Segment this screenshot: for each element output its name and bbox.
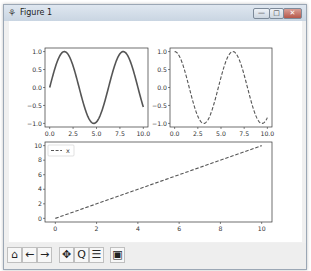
configure-subplots-button[interactable]: ☰ [89,247,104,263]
home-button[interactable]: ⌂ [7,247,22,263]
subplot-2: 0.02.55.07.510.0−1.0−0.50.00.51.0 [152,48,274,137]
x-tick-label: 2 [95,225,99,232]
y-tick-label: 0 [38,215,42,222]
y-tick-label: −1.0 [152,120,167,127]
x-tick-label: 4 [136,225,140,232]
x-tick-label: 10.0 [136,130,150,137]
x-tick-label: 5.0 [92,130,102,137]
window-title: Figure 1 [20,7,52,19]
y-tick-label: 0.0 [157,84,167,91]
x-tick-label: 0 [53,225,57,232]
save-button[interactable]: ▣ [110,247,125,263]
subplot-3: 02468100246810x [34,142,272,232]
x-tick-label: 8 [218,225,222,232]
maximize-button[interactable]: □ [269,8,284,19]
close-button[interactable]: ✕ [283,8,302,19]
x-tick-label: 10 [258,225,266,232]
x-tick-label: 7.5 [115,130,125,137]
x-tick-label: 2.5 [68,130,78,137]
navigation-toolbar: ⌂ ← → ✥ Q ☰ ▣ [4,243,306,269]
line-sinx [50,52,144,124]
figure-window: ⚘ Figure 1 — □ ✕ 0.02.55.07.510.0−1.0−0.… [3,4,307,270]
axes-frame [170,48,272,127]
x-tick-label: 10.0 [260,130,274,137]
x-tick-label: 0.0 [45,130,55,137]
title-bar[interactable]: ⚘ Figure 1 — □ ✕ [4,5,306,21]
line-x [55,146,261,219]
y-tick-label: 8 [38,156,42,163]
y-tick-label: 2 [38,200,42,207]
pan-button[interactable]: ✥ [59,247,74,263]
y-tick-label: −0.5 [152,102,167,109]
figure-canvas[interactable]: 0.02.55.07.510.0−1.0−0.50.00.51.00.02.55… [9,21,302,242]
y-tick-label: 1.0 [32,48,42,55]
figure-icon: ⚘ [8,8,18,18]
y-tick-label: 0.5 [32,66,42,73]
axes-frame [45,48,148,127]
y-tick-label: 4 [38,185,42,192]
y-tick-label: 1.0 [157,48,167,55]
back-button[interactable]: ← [22,247,37,263]
plot-area: 0.02.55.07.510.0−1.0−0.50.00.51.00.02.55… [9,21,302,242]
x-tick-label: 0.0 [170,130,180,137]
y-tick-label: −0.5 [27,102,42,109]
forward-button[interactable]: → [37,247,52,263]
x-tick-label: 2.5 [193,130,203,137]
y-tick-label: 0.0 [32,84,42,91]
y-tick-label: 0.5 [157,66,167,73]
subplot-1: 0.02.55.07.510.0−1.0−0.50.00.51.0 [27,48,150,137]
y-tick-label: −1.0 [27,120,42,127]
legend-label: x [66,147,70,155]
minimize-button[interactable]: — [253,8,270,19]
y-tick-label: 10 [34,142,42,149]
x-tick-label: 6 [177,225,181,232]
legend: x [48,145,74,156]
x-tick-label: 7.5 [239,130,249,137]
zoom-button[interactable]: Q [74,247,89,263]
y-tick-label: 6 [38,171,42,178]
x-tick-label: 5.0 [216,130,226,137]
line-cosx [175,52,268,124]
